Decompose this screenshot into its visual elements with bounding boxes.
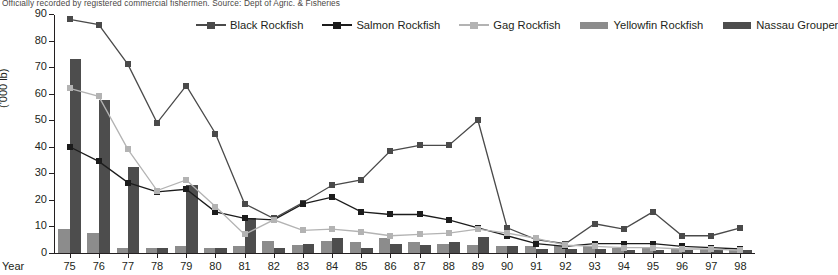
x-axis-tick — [186, 253, 187, 258]
data-point-marker — [737, 225, 743, 231]
y-axis-tick-label: 90 — [35, 7, 47, 19]
data-point-marker — [446, 217, 452, 223]
data-point-marker — [737, 247, 743, 253]
y-axis-tick-label: 60 — [35, 87, 47, 99]
line-path — [70, 88, 741, 250]
x-axis-title: Year — [2, 260, 24, 272]
x-axis-tick-label: 81 — [238, 260, 250, 272]
x-axis-tick-label: 89 — [472, 260, 484, 272]
data-point-marker — [358, 229, 364, 235]
data-point-marker — [96, 158, 102, 164]
legend-label: Nassau Grouper — [756, 19, 838, 31]
data-point-marker — [183, 186, 189, 192]
x-axis-tick-label: 86 — [384, 260, 396, 272]
x-axis-tick-label: 82 — [268, 260, 280, 272]
data-point-marker — [125, 146, 131, 152]
data-point-marker — [679, 233, 685, 239]
y-axis-tick — [49, 14, 54, 15]
data-point-marker — [67, 144, 73, 150]
y-axis-tick-label: 70 — [35, 60, 47, 72]
data-point-marker — [387, 148, 393, 154]
data-point-marker — [242, 215, 248, 221]
data-point-marker — [329, 182, 335, 188]
x-axis-tick — [157, 253, 158, 258]
x-axis-tick — [682, 253, 683, 258]
x-axis-tick-label: 78 — [151, 260, 163, 272]
data-point-marker — [300, 227, 306, 233]
data-point-marker — [504, 230, 510, 236]
data-point-marker — [417, 211, 423, 217]
x-axis-tick — [274, 253, 275, 258]
data-point-marker — [242, 231, 248, 237]
data-point-marker — [96, 22, 102, 28]
x-axis-line — [54, 253, 755, 254]
data-point-marker — [475, 226, 481, 232]
data-point-marker — [329, 194, 335, 200]
x-axis-tick-label: 77 — [122, 260, 134, 272]
x-axis-tick — [303, 253, 304, 258]
y-axis-tick-label: 40 — [35, 140, 47, 152]
data-point-marker — [475, 117, 481, 123]
chart-subtitle: Officially recorded by registered commer… — [2, 0, 340, 8]
x-axis-tick-label: 90 — [501, 260, 513, 272]
data-point-marker — [708, 233, 714, 239]
x-axis-tick-label: 95 — [647, 260, 659, 272]
x-axis-tick-label: 83 — [297, 260, 309, 272]
data-point-marker — [358, 177, 364, 183]
data-point-marker — [533, 235, 539, 241]
data-point-marker — [212, 209, 218, 215]
data-point-marker — [621, 226, 627, 232]
data-point-marker — [417, 231, 423, 237]
y-axis-tick — [49, 226, 54, 227]
y-axis-tick — [49, 41, 54, 42]
x-axis-tick — [215, 253, 216, 258]
x-axis-tick — [740, 253, 741, 258]
data-point-marker — [387, 233, 393, 239]
data-point-marker — [562, 242, 568, 248]
x-axis-tick-label: 88 — [443, 260, 455, 272]
line-path — [70, 19, 741, 243]
x-axis-tick-label: 96 — [676, 260, 688, 272]
x-axis-tick-label: 75 — [63, 260, 75, 272]
data-point-marker — [183, 83, 189, 89]
y-axis-title: ('000 lb) — [0, 69, 9, 108]
data-point-marker — [533, 241, 539, 247]
data-point-marker — [242, 201, 248, 207]
line-path — [70, 147, 741, 249]
x-axis-tick-label: 80 — [209, 260, 221, 272]
x-axis-tick — [536, 253, 537, 258]
x-axis-tick — [70, 253, 71, 258]
data-point-marker — [446, 230, 452, 236]
data-point-marker — [504, 225, 510, 231]
data-point-marker — [300, 201, 306, 207]
data-point-marker — [358, 209, 364, 215]
y-axis-tick-label: 20 — [35, 193, 47, 205]
y-axis-tick-label: 30 — [35, 166, 47, 178]
x-axis-tick — [420, 253, 421, 258]
x-axis-tick — [478, 253, 479, 258]
data-point-marker — [650, 245, 656, 251]
data-point-marker — [650, 209, 656, 215]
data-point-marker — [621, 245, 627, 251]
x-axis-tick-label: 84 — [326, 260, 338, 272]
x-axis-tick-label: 93 — [588, 260, 600, 272]
data-point-marker — [67, 16, 73, 22]
data-point-marker — [446, 142, 452, 148]
data-point-marker — [183, 177, 189, 183]
x-axis-tick — [128, 253, 129, 258]
x-axis-tick-label: 91 — [530, 260, 542, 272]
x-axis-tick-label: 92 — [559, 260, 571, 272]
x-axis-tick — [361, 253, 362, 258]
y-axis-tick — [49, 173, 54, 174]
x-axis-tick-label: 85 — [355, 260, 367, 272]
x-axis-tick — [507, 253, 508, 258]
y-axis-tick — [49, 67, 54, 68]
plot-area — [55, 14, 755, 253]
line-layer — [55, 14, 755, 253]
data-point-marker — [679, 246, 685, 252]
data-point-marker — [154, 120, 160, 126]
data-point-marker — [125, 180, 131, 186]
x-axis-tick — [653, 253, 654, 258]
x-axis-tick — [390, 253, 391, 258]
